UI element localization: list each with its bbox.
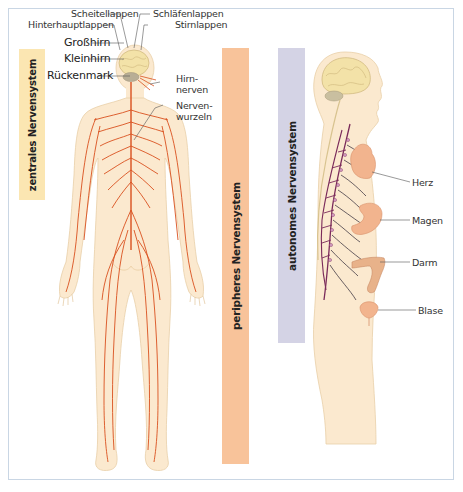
label-hinterhauptlappen: Hinterhauptlappen bbox=[28, 19, 114, 30]
side-body-figure bbox=[313, 52, 384, 444]
label-schlaefenlappen: Schläfenlappen bbox=[153, 8, 224, 19]
label-darm: Darm bbox=[412, 257, 437, 268]
label-nervenwurzeln-line2: wurzeln bbox=[176, 111, 212, 122]
label-grosshirn: Großhirn bbox=[64, 37, 110, 48]
label-blase: Blase bbox=[418, 305, 443, 316]
label-stirnlappen: Stirnlappen bbox=[175, 19, 227, 30]
label-nervenwurzeln-line1: Nerven- bbox=[176, 100, 212, 111]
label-rueckenmark: Rückenmark bbox=[47, 70, 113, 81]
label-kleinhirn: Kleinhirn bbox=[64, 53, 111, 64]
label-magen: Magen bbox=[412, 215, 443, 226]
side-leader-lines bbox=[372, 172, 416, 310]
label-scheitellappen: Scheitellappen bbox=[71, 8, 139, 19]
label-hirnnerven-line1: Hirn- bbox=[176, 73, 198, 84]
label-herz: Herz bbox=[412, 177, 433, 188]
label-hirnnerven-line2: nerven bbox=[176, 84, 208, 95]
